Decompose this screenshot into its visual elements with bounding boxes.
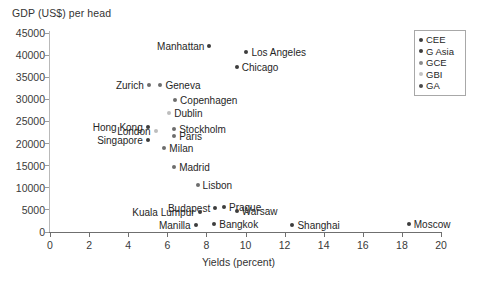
data-point-label: Singapore: [97, 134, 143, 145]
data-point-label: Shanghai: [297, 220, 339, 231]
x-tick-mark: [246, 233, 247, 237]
data-point-label: Warsaw: [242, 205, 278, 216]
x-tick-mark: [285, 233, 286, 237]
x-axis-title: Yields (percent): [0, 256, 477, 268]
legend-marker-icon: [419, 72, 423, 76]
legend-item[interactable]: GBI: [418, 69, 462, 81]
data-point-label: Bangkok: [219, 218, 258, 229]
x-tick-mark: [324, 233, 325, 237]
data-point-label: Kuala Lumpur: [132, 207, 194, 218]
x-tick-mark: [206, 233, 207, 237]
data-point[interactable]: [222, 205, 226, 209]
legend: CEEG AsiaGCEGBIGA: [414, 30, 466, 96]
data-point[interactable]: [147, 83, 151, 87]
legend-item-label: G Asia: [426, 46, 454, 58]
data-point-label: Madrid: [179, 161, 210, 172]
data-point-label: Dublin: [174, 108, 202, 119]
data-point-label: Chicago: [242, 62, 279, 73]
data-point[interactable]: [172, 165, 176, 169]
y-tick-mark: [45, 187, 49, 188]
x-tick-mark: [441, 233, 442, 237]
data-point-label: Zurich: [116, 80, 144, 91]
y-tick-label: 10000: [16, 182, 45, 194]
x-tick-label: 4: [125, 239, 131, 251]
y-tick-label: 30000: [16, 93, 45, 105]
data-point[interactable]: [158, 83, 162, 87]
x-tick-label: 16: [357, 239, 369, 251]
x-tick-mark: [167, 233, 168, 237]
x-tick-mark: [402, 233, 403, 237]
y-tick-mark: [45, 165, 49, 166]
data-point-label: Copenhagen: [180, 94, 237, 105]
data-point-label: Geneva: [165, 80, 200, 91]
y-tick-label: 25000: [16, 115, 45, 127]
data-point[interactable]: [407, 222, 411, 226]
y-tick-mark: [45, 33, 49, 34]
legend-marker-icon: [419, 61, 423, 65]
data-point[interactable]: [167, 111, 171, 115]
y-tick-label: 20000: [16, 138, 45, 150]
x-tick-label: 10: [240, 239, 252, 251]
x-tick-label: 14: [318, 239, 330, 251]
y-tick-label: 15000: [16, 160, 45, 172]
x-tick-label: 8: [203, 239, 209, 251]
data-point-label: Moscow: [414, 219, 451, 230]
x-tick-label: 20: [435, 239, 447, 251]
y-tick-mark: [45, 99, 49, 100]
data-point[interactable]: [212, 222, 216, 226]
x-tick-label: 6: [164, 239, 170, 251]
data-point-label: Manhattan: [157, 40, 204, 51]
x-tick-mark: [50, 233, 51, 237]
data-point[interactable]: [235, 209, 239, 213]
legend-item[interactable]: GA: [418, 80, 462, 92]
y-tick-mark: [45, 121, 49, 122]
data-point[interactable]: [207, 44, 211, 48]
y-tick-mark: [45, 55, 49, 56]
legend-marker-icon: [419, 84, 423, 88]
data-point[interactable]: [172, 134, 176, 138]
data-point-label: Milan: [169, 142, 193, 153]
data-point-label: Lisbon: [203, 180, 232, 191]
y-tick-mark: [45, 209, 49, 210]
x-tick-mark: [89, 233, 90, 237]
legend-item[interactable]: GCE: [418, 57, 462, 69]
x-tick-mark: [363, 233, 364, 237]
data-point[interactable]: [154, 129, 158, 133]
data-point[interactable]: [198, 210, 202, 214]
data-point[interactable]: [172, 127, 176, 131]
y-tick-label: 5000: [22, 204, 45, 216]
data-point[interactable]: [162, 146, 166, 150]
data-point-label: Los Angeles: [251, 47, 306, 58]
legend-marker-icon: [419, 49, 423, 53]
x-tick-label: 0: [47, 239, 53, 251]
data-point[interactable]: [146, 138, 150, 142]
y-axis-title: GDP (US$) per head: [12, 7, 111, 19]
x-tick-mark: [128, 233, 129, 237]
data-point[interactable]: [290, 223, 294, 227]
data-point[interactable]: [235, 65, 239, 69]
data-point[interactable]: [194, 223, 198, 227]
data-point[interactable]: [244, 50, 248, 54]
legend-item-label: GBI: [426, 69, 442, 81]
data-points-layer: ManhattanLos AngelesChicagoZurichGenevaC…: [50, 33, 441, 232]
legend-item-label: CEE: [426, 34, 446, 46]
data-point[interactable]: [173, 98, 177, 102]
data-point-label: Manilla: [159, 220, 191, 231]
legend-item-label: GCE: [426, 57, 447, 69]
legend-marker-icon: [419, 38, 423, 42]
y-tick-label: 40000: [16, 49, 45, 61]
y-tick-mark: [45, 143, 49, 144]
scatter-chart-figure: GDP (US$) per head 050001000015000200002…: [0, 0, 477, 281]
x-tick-label: 2: [86, 239, 92, 251]
x-tick-label: 18: [396, 239, 408, 251]
legend-item-label: GA: [426, 80, 440, 92]
y-tick-mark: [45, 232, 49, 233]
data-point[interactable]: [213, 206, 217, 210]
y-tick-label: 35000: [16, 71, 45, 83]
y-tick-label: 45000: [16, 27, 45, 39]
data-point-label: Paris: [179, 130, 202, 141]
legend-item[interactable]: CEE: [418, 34, 462, 46]
x-tick-label: 12: [279, 239, 291, 251]
legend-item[interactable]: G Asia: [418, 46, 462, 58]
data-point[interactable]: [196, 183, 200, 187]
